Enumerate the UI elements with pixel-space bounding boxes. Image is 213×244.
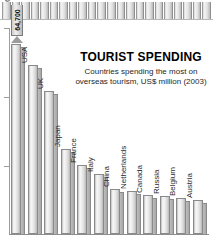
- strip-bar: [164, 2, 173, 19]
- y-axis-tick: [4, 97, 10, 98]
- strip-bar: [117, 2, 126, 19]
- cropped-chart-strip: [0, 0, 213, 20]
- chart-subtitle-line-2: overseas tourism, US$ million (2003): [75, 77, 206, 86]
- strip-bar: [202, 2, 211, 19]
- strip-bar: [88, 2, 97, 19]
- y-axis-tick: [4, 166, 10, 167]
- bar-front-face: [11, 44, 21, 234]
- strip-bar: [136, 2, 145, 19]
- bar-label-canada: Canada: [135, 165, 144, 193]
- bar-label-uk: UK: [36, 78, 45, 89]
- chart-title-block: TOURIST SPENDING Countries spending the …: [73, 50, 209, 87]
- bar-front-face: [193, 200, 203, 234]
- bar-label-netherlands: Netherlands: [119, 146, 128, 189]
- strip-bar: [59, 2, 68, 19]
- bar-label-china: China: [102, 166, 111, 187]
- bar-label-usa: USA: [20, 47, 29, 63]
- bar-front-face: [110, 189, 120, 234]
- bar-front-face: [77, 165, 87, 234]
- bar-label-belgium: Belgium: [168, 167, 177, 196]
- chart-subtitle: Countries spending the most on overseas …: [73, 67, 209, 87]
- strip-bar: [155, 2, 164, 19]
- bar-label-russia: Russia: [152, 170, 161, 194]
- strip-bar: [69, 2, 78, 19]
- bar-label-france: France: [69, 138, 78, 163]
- y-axis-tick: [4, 28, 10, 29]
- value-callout-text: 64,700: [14, 9, 21, 30]
- bar-front-face: [127, 191, 137, 234]
- x-axis-baseline: [9, 234, 209, 235]
- chart-subtitle-line-1: Countries spending the most on: [85, 67, 198, 76]
- strip-bar: [145, 2, 154, 19]
- value-callout-tip-icon: [11, 36, 23, 43]
- bar-front-face: [160, 196, 170, 234]
- strip-bar: [97, 2, 106, 19]
- bar-front-face: [28, 65, 38, 234]
- value-callout: 64,700: [11, 5, 23, 43]
- bar-label-austria: Austria: [185, 173, 194, 198]
- strip-bar: [193, 2, 202, 19]
- strip-bar: [2, 2, 11, 19]
- bar-front-face: [143, 195, 153, 234]
- strip-bar: [174, 2, 183, 19]
- bar-label-italy: Italy: [86, 157, 95, 172]
- bar-front-face: [44, 91, 54, 234]
- y-axis: [9, 28, 10, 234]
- strip-bar: [78, 2, 87, 19]
- strip-bar: [50, 2, 59, 19]
- chart-title: TOURIST SPENDING: [73, 50, 209, 64]
- bar-label-germany: Germany: [3, 0, 12, 2]
- strip-bar: [40, 2, 49, 19]
- strip-bar: [107, 2, 116, 19]
- bar-label-japan: Japan: [53, 125, 62, 147]
- bar-front-face: [176, 198, 186, 234]
- strip-bar: [126, 2, 135, 19]
- tourist-spending-chart: Germany64,700USAUKJapanFranceItalyChinaN…: [0, 22, 213, 244]
- strip-bar: [31, 2, 40, 19]
- strip-bar: [183, 2, 192, 19]
